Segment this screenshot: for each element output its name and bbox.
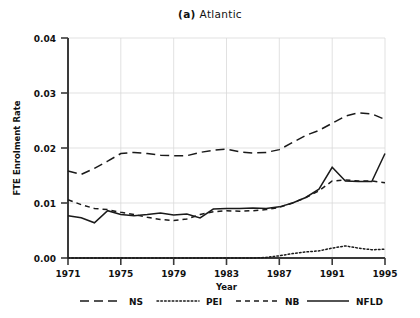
x-tick-label-2: 1979: [161, 269, 186, 279]
y-axis-ticks: 0.04 0.03 0.02 0.01 0.00: [34, 34, 68, 264]
y-tick-label-2: 0.02: [34, 144, 56, 154]
y-tick-label-4: 0.00: [34, 254, 56, 264]
grid-lines: [68, 38, 385, 258]
y-tick-label-0: 0.04: [34, 34, 56, 44]
x-tick-label-5: 1991: [320, 269, 345, 279]
y-tick-label-3: 0.01: [34, 199, 56, 209]
x-tick-label-0: 1971: [55, 269, 80, 279]
x-axis-ticks: 1971 1975 1979 1983 1987 1991 1995: [55, 258, 397, 279]
legend-label-pei: PEI: [206, 297, 222, 307]
legend-label-ns: NS: [129, 297, 143, 307]
x-tick-label-4: 1987: [267, 269, 292, 279]
chart-canvas: 0.04 0.03 0.02 0.01 0.00 1971 1975 1979 …: [0, 0, 420, 318]
x-axis-label: Year: [215, 282, 238, 292]
x-tick-label-6: 1995: [372, 269, 397, 279]
x-tick-label-1: 1975: [108, 269, 133, 279]
y-axis-label: FTE Enrolment Rate: [12, 100, 22, 195]
y-tick-label-1: 0.03: [34, 89, 56, 99]
legend-label-nfld: NFLD: [356, 297, 383, 307]
chart-figure: (a) Atlantic: [0, 0, 420, 318]
legend-label-nb: NB: [285, 297, 300, 307]
x-tick-label-3: 1983: [214, 269, 239, 279]
chart-legend: NS PEI NB NFLD: [80, 297, 383, 307]
